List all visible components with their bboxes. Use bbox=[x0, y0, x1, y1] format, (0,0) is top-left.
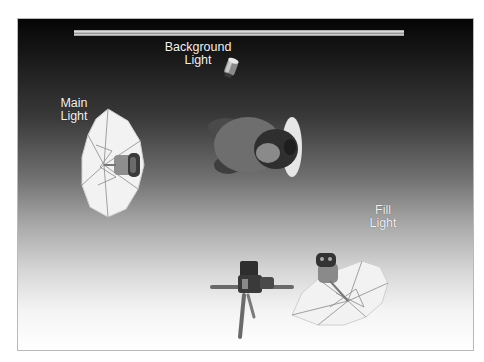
camera-tripod-icon bbox=[210, 255, 294, 341]
background-light-icon bbox=[221, 57, 241, 81]
main-light-umbrella-icon bbox=[78, 107, 154, 219]
lighting-diagram: Background Light Main Light bbox=[17, 18, 474, 351]
fill-light-label: Fill Light bbox=[358, 204, 408, 230]
subject-person-icon bbox=[196, 107, 308, 187]
backdrop bbox=[74, 30, 404, 36]
fill-light-umbrella-icon bbox=[290, 245, 390, 327]
fill-light-label-line2: Light bbox=[358, 217, 408, 230]
